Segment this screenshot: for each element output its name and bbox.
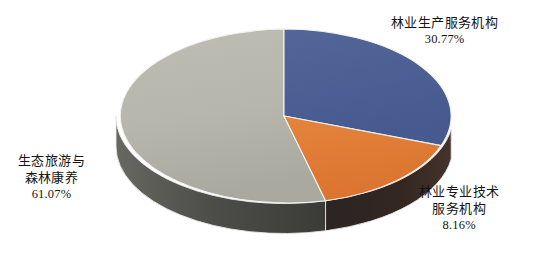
slice-label-orange-percent: 8.16% bbox=[419, 217, 499, 234]
slice-label-gray-percent: 61.07% bbox=[18, 186, 85, 203]
slice-label-gray-text-1: 生态旅游与 bbox=[18, 152, 85, 169]
slice-label-gray: 生态旅游与 森林康养 61.07% bbox=[18, 152, 85, 203]
slice-label-gray-text-2: 森林康养 bbox=[18, 169, 85, 186]
slice-label-blue-percent: 30.77% bbox=[391, 31, 498, 48]
slice-label-blue-text: 林业生产服务机构 bbox=[391, 14, 498, 31]
pie-top-faces bbox=[120, 29, 451, 203]
slice-label-orange-text-2: 服务机构 bbox=[419, 200, 499, 217]
slice-label-blue: 林业生产服务机构 30.77% bbox=[391, 14, 498, 48]
pie-chart-figure: 林业生产服务机构 30.77% 生态旅游与 森林康养 61.07% 林业专业技术… bbox=[0, 0, 550, 260]
slice-label-orange-text-1: 林业专业技术 bbox=[419, 183, 499, 200]
slice-label-orange: 林业专业技术 服务机构 8.16% bbox=[419, 183, 499, 234]
